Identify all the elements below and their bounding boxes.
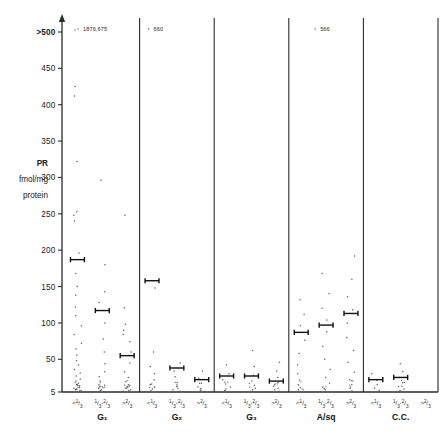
x-axis-column-label: <1/3 <box>72 399 83 409</box>
data-point <box>230 386 232 388</box>
x-axis-group-label: G₃ <box>246 412 257 422</box>
data-point <box>297 364 299 366</box>
data-point <box>104 385 105 386</box>
data-point <box>325 386 326 387</box>
data-point <box>204 391 205 392</box>
data-point <box>123 334 125 336</box>
data-point <box>74 86 76 88</box>
data-point <box>104 291 106 293</box>
data-point <box>277 377 279 379</box>
data-point <box>128 390 130 392</box>
x-axis-column-label: 1/3-2/3 <box>318 399 334 409</box>
data-point <box>98 384 100 386</box>
data-point <box>298 353 300 355</box>
data-point <box>201 383 203 385</box>
data-point <box>129 341 131 343</box>
x-axis-column-label: 1/3-2/3 <box>95 399 111 409</box>
data-point <box>99 380 101 382</box>
data-point <box>150 390 152 392</box>
data-point <box>302 389 303 390</box>
data-point <box>303 313 305 315</box>
data-point <box>75 295 77 297</box>
data-point <box>322 345 324 347</box>
offscale-value-annotation: 1876,675 <box>83 26 107 32</box>
data-point <box>125 381 127 383</box>
data-point <box>250 391 252 393</box>
data-point <box>354 255 356 257</box>
data-point <box>277 391 278 392</box>
data-point <box>252 391 253 392</box>
data-point <box>226 364 228 366</box>
data-point <box>176 384 177 385</box>
data-point <box>81 343 83 345</box>
data-point <box>104 264 106 266</box>
data-point <box>328 391 329 392</box>
data-point <box>104 351 106 353</box>
data-point <box>352 309 354 311</box>
data-point <box>353 350 355 352</box>
data-point <box>300 325 302 327</box>
x-axis-column-label: 1/3-2/3 <box>393 399 409 409</box>
data-point <box>76 211 78 213</box>
data-point <box>225 383 227 385</box>
data-point <box>297 373 299 375</box>
data-point <box>222 379 224 381</box>
y-axis-title-line: fmol/mg <box>19 175 49 184</box>
data-point <box>76 360 78 362</box>
data-point <box>98 376 100 378</box>
data-point <box>277 383 278 384</box>
y-axis-title-line: protein <box>23 191 48 200</box>
data-point <box>175 382 176 383</box>
data-point <box>353 372 355 374</box>
data-point <box>100 180 102 182</box>
pr-scatter-figure: >500450400350300250200150100505PRfmol/mg… <box>0 0 441 431</box>
data-point <box>127 386 128 387</box>
data-point <box>325 389 326 390</box>
data-point <box>199 391 201 393</box>
data-point <box>150 366 152 368</box>
data-point <box>253 366 255 368</box>
data-point <box>77 286 79 288</box>
data-point <box>224 390 225 391</box>
data-point <box>172 389 174 391</box>
data-point <box>104 371 106 373</box>
data-point <box>79 378 81 380</box>
data-point <box>278 391 280 393</box>
data-point <box>73 334 75 336</box>
y-axis-tick-label: 250 <box>41 210 56 219</box>
offscale-value-annotation: 566 <box>320 26 330 32</box>
data-point <box>73 215 75 217</box>
data-point <box>376 384 378 386</box>
data-point <box>224 382 225 383</box>
data-point <box>75 375 77 377</box>
x-axis-group-label: G₂ <box>172 412 183 422</box>
y-axis-title-line: PR <box>37 159 48 168</box>
x-axis-column-label: >2/3 <box>420 399 431 409</box>
data-point <box>78 383 80 385</box>
x-axis-column-label: 1/3-2/3 <box>244 399 260 409</box>
y-axis-tick-label: 50 <box>46 355 56 364</box>
data-point <box>75 273 77 275</box>
data-point <box>103 338 105 340</box>
data-point <box>102 386 103 387</box>
x-axis-column-label: >2/3 <box>346 399 357 409</box>
data-point <box>125 387 126 388</box>
data-point <box>346 337 348 339</box>
data-point <box>75 348 77 350</box>
data-point <box>349 388 351 390</box>
data-point <box>154 287 156 289</box>
data-point <box>399 363 401 365</box>
data-point <box>128 384 130 386</box>
data-point <box>274 389 276 391</box>
data-point <box>78 387 80 389</box>
y-axis-tick-label: >500 <box>36 28 55 37</box>
plot-canvas: >500450400350300250200150100505PRfmol/mg… <box>0 0 441 431</box>
data-point <box>328 293 330 295</box>
data-point <box>352 380 353 381</box>
data-point <box>125 324 127 326</box>
data-point <box>325 377 327 379</box>
y-axis-tick-label: 350 <box>41 137 56 146</box>
data-point <box>154 386 155 387</box>
y-axis-tick-label: 150 <box>41 283 56 292</box>
y-axis-arrow <box>59 14 65 22</box>
